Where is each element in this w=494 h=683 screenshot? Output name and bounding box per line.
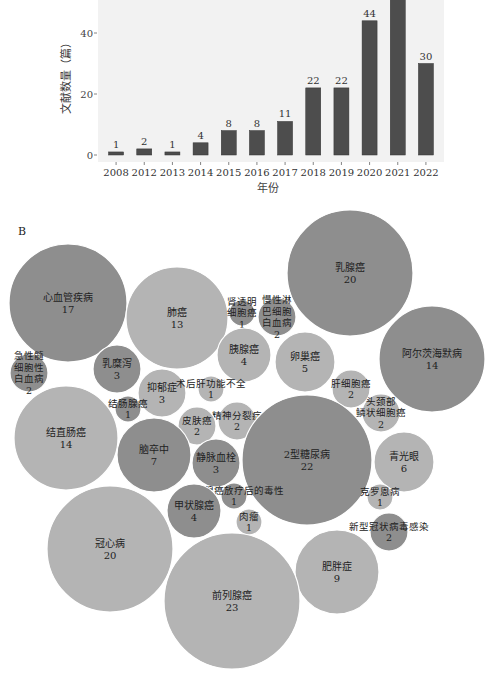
bubble-label: 卵巢癌 xyxy=(290,350,320,362)
bubble: 卵巢癌5 xyxy=(275,332,335,392)
bar-value-label: 1 xyxy=(113,139,119,150)
x-tick-label: 2022 xyxy=(413,167,438,178)
bar xyxy=(249,131,264,155)
bubble-value: 14 xyxy=(60,439,73,450)
bubble: 术后肝功能不全1 xyxy=(176,376,246,402)
bubble-label: 肺癌 xyxy=(167,306,187,318)
bubble-label: 细胞癌 xyxy=(227,307,257,318)
bar-value-label: 30 xyxy=(420,51,433,62)
bubble-value: 22 xyxy=(301,461,314,472)
bubble-value: 14 xyxy=(426,360,439,371)
bubble-value: 2 xyxy=(348,389,354,400)
bubble: 肾透明细胞癌1 xyxy=(227,296,257,330)
x-tick-label: 2018 xyxy=(301,167,326,178)
bar xyxy=(137,149,152,155)
bubble: 克罗恩病1 xyxy=(360,484,400,510)
y-tick-label: 0 xyxy=(87,150,93,161)
bubble-label: 肥胖症 xyxy=(322,560,352,572)
bubble-label: 巴细胞 xyxy=(262,306,292,317)
bubble-value: 3 xyxy=(114,370,120,381)
bubble-value: 2 xyxy=(194,426,200,437)
bubble-label: 乳糜泻 xyxy=(102,357,132,369)
bar-value-label: 22 xyxy=(307,75,320,86)
bar xyxy=(334,88,349,155)
y-tick-label: 20 xyxy=(80,89,93,100)
bar xyxy=(418,64,433,156)
bubble-value: 6 xyxy=(401,463,407,474)
bubble-label: 2型糖尿病 xyxy=(284,448,330,460)
bubble-chart: B心血管疾病17肺癌13肾透明细胞癌1慢性淋巴细胞白血病2乳腺癌20急性髓细胞性… xyxy=(0,195,494,683)
bar-value-label: 2 xyxy=(141,136,147,147)
bar xyxy=(109,152,124,155)
bubble-label: 肾透明 xyxy=(227,296,257,307)
bubble-value: 1 xyxy=(125,409,131,420)
bubble-label: 青光眼 xyxy=(389,450,419,462)
bubble: 乳腺癌20 xyxy=(287,210,413,336)
bubble: 青光眼6 xyxy=(374,432,434,492)
bar xyxy=(193,143,208,155)
x-tick-label: 2012 xyxy=(132,167,157,178)
bubble: 心血管疾病17 xyxy=(9,244,127,362)
bubble: 乳糜泻3 xyxy=(93,345,141,393)
x-tick-label: 2014 xyxy=(188,167,213,178)
bubble: 肉瘤1 xyxy=(236,509,262,535)
bubble: 结直肠癌14 xyxy=(14,386,118,490)
x-axis-label: 年份 xyxy=(257,181,279,195)
bubble-value: 2 xyxy=(386,532,392,543)
bubble-label: 结肠腺癌 xyxy=(108,398,148,409)
bubble-value: 2 xyxy=(234,421,240,432)
bubble-label: 甲状腺癌 xyxy=(174,499,214,511)
bubble-label: 脑卒中 xyxy=(139,443,169,455)
bubble-value: 2 xyxy=(378,419,384,430)
bubble: 胰腺癌4 xyxy=(217,328,271,382)
bar-chart: 02040文献数量（篇）1200822012120134201482015820… xyxy=(0,0,494,195)
bubble-label: 皮肤癌 xyxy=(182,415,212,426)
bubble-label: 新型冠状病毒感染 xyxy=(349,521,429,532)
bubble-value: 1 xyxy=(246,522,252,533)
bubble-value: 20 xyxy=(104,550,117,561)
bubble-label: 心血管疾病 xyxy=(43,291,93,303)
bubble-label: 结直肠癌 xyxy=(46,426,86,438)
bubble-value: 1 xyxy=(231,496,237,507)
bubble: 前列腺癌23 xyxy=(164,533,300,669)
bubble-label: 肝细胞癌 xyxy=(331,378,371,389)
bubble-value: 5 xyxy=(302,363,308,374)
bubble-value: 7 xyxy=(151,456,157,467)
bar-value-label: 4 xyxy=(197,130,203,141)
bar xyxy=(278,121,293,155)
bubble: 肥胖症9 xyxy=(295,530,379,614)
bubble-value: 17 xyxy=(62,304,75,315)
bubble: 静脉血栓3 xyxy=(192,439,240,487)
bubble-value: 20 xyxy=(344,274,357,285)
bubble: 甲状腺癌4 xyxy=(167,484,221,538)
bar xyxy=(165,152,180,155)
bubble-value: 13 xyxy=(171,319,184,330)
bubble-label: 白血病 xyxy=(14,373,44,384)
bubble-label: 肉瘤 xyxy=(239,511,259,522)
bar-value-label: 44 xyxy=(363,8,376,19)
bubble-label: 抑郁症 xyxy=(147,381,177,393)
x-tick-label: 2017 xyxy=(272,167,297,178)
bubble: 2型糖尿病22 xyxy=(242,395,372,525)
y-axis-label: 文献数量（篇） xyxy=(59,37,73,114)
bubble-value: 1 xyxy=(377,497,383,508)
bar xyxy=(390,0,405,155)
bubble: 肺癌13 xyxy=(126,267,228,369)
bar-value-label: 1 xyxy=(169,139,175,150)
bubble-label: 慢性淋 xyxy=(262,294,292,305)
bubble-label: 乳腺癌 xyxy=(335,261,365,273)
x-tick-label: 2013 xyxy=(160,167,185,178)
bubble: 慢性淋巴细胞白血病2 xyxy=(258,294,296,340)
bubble-label: 克罗恩病 xyxy=(360,486,400,497)
bubble-value: 3 xyxy=(213,464,219,475)
bubble-label: 细胞性 xyxy=(14,362,44,373)
bubble-label: 精神分裂症 xyxy=(212,410,262,421)
bubble-value: 2 xyxy=(26,385,32,396)
bubble-value: 9 xyxy=(334,573,340,584)
bubble-label: 术后肝功能不全 xyxy=(176,378,246,389)
bubble-label: 急性髓 xyxy=(14,350,44,361)
x-tick-label: 2021 xyxy=(385,167,410,178)
x-tick-label: 2016 xyxy=(244,167,269,178)
bubble-label: 阿尔茨海默病 xyxy=(402,347,462,359)
bar-value-label: 22 xyxy=(335,75,348,86)
